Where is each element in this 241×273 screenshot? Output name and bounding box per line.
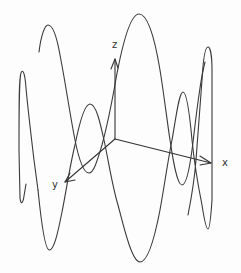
diagram-canvas: z y x (0, 0, 241, 273)
y-axis-label: y (52, 180, 58, 190)
axes (65, 59, 211, 182)
x-axis-label: x (222, 158, 228, 168)
upper-arcs (39, 14, 205, 185)
left-spike (19, 71, 38, 203)
z-axis-label: z (112, 40, 117, 50)
y-axis-line (65, 139, 115, 182)
diagram-svg (0, 0, 241, 273)
